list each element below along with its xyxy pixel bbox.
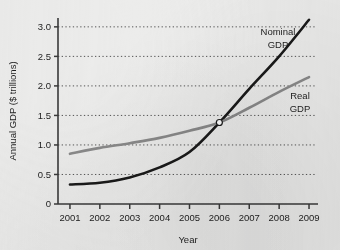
- x-tick-label: 2002: [89, 212, 110, 223]
- x-axis-tick-labels: 200120022003200420052006200720082009: [59, 212, 319, 223]
- x-tick-label: 2001: [59, 212, 80, 223]
- x-tick-label: 2006: [209, 212, 230, 223]
- gdp-line-chart: 00.51.01.52.02.53.0 20012002200320042005…: [0, 0, 340, 250]
- y-tick-label: 3.0: [38, 21, 51, 32]
- series-label-real-gdp-line1: Real: [290, 90, 310, 101]
- y-tick-label: 1.5: [38, 110, 51, 121]
- x-tick-label: 2009: [298, 212, 319, 223]
- y-tick-label: 2.0: [38, 80, 51, 91]
- y-tick-label: 1.0: [38, 139, 51, 150]
- x-axis-title: Year: [178, 234, 197, 245]
- x-tick-label: 2003: [119, 212, 140, 223]
- y-axis-title: Annual GDP ($ trillions): [7, 61, 18, 160]
- series-label-nominal-gdp-line1: Nominal: [261, 26, 296, 37]
- intersection-marker-icon: [216, 120, 222, 126]
- series-label-nominal-gdp-line2: GDP: [268, 39, 289, 50]
- x-tick-label: 2005: [179, 212, 200, 223]
- x-tick-label: 2008: [269, 212, 290, 223]
- y-tick-label: 2.5: [38, 51, 51, 62]
- chart-container: 00.51.01.52.02.53.0 20012002200320042005…: [0, 0, 340, 250]
- annotation-markers-group: [216, 120, 222, 126]
- y-tick-label: 0.5: [38, 169, 51, 180]
- series-label-real-gdp-line2: GDP: [290, 103, 311, 114]
- y-tick-label: 0: [46, 198, 51, 209]
- x-tick-label: 2007: [239, 212, 260, 223]
- x-tick-label: 2004: [149, 212, 170, 223]
